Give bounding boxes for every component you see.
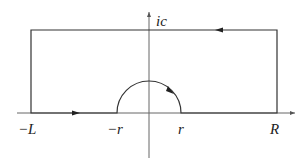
arrow-left-icon [215,28,223,33]
contour-path [31,30,277,113]
label-left-indent: −r [107,121,123,137]
contour-diagram: ic −L −r r R [0,0,308,166]
label-right-indent: r [178,121,184,137]
label-right-end: R [269,121,279,137]
label-imag-axis: ic [156,13,167,29]
arrow-right-icon [72,111,80,116]
label-left-end: −L [18,121,36,137]
